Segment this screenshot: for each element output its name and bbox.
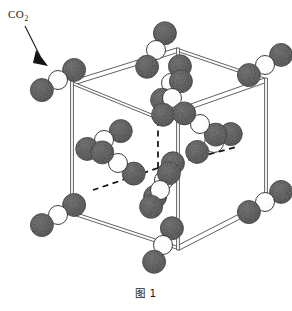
oxygen-atom xyxy=(152,103,175,126)
figure-caption: 图 1 xyxy=(135,287,157,299)
co2-label-main: CO xyxy=(8,8,24,20)
figure-container: CO2 图 1 xyxy=(0,0,292,311)
oxygen-atom xyxy=(140,195,163,218)
co2-crystal-structure-figure: CO2 图 1 xyxy=(0,0,292,311)
cell-edge-vertical-back-right xyxy=(265,78,268,205)
co2-label-subscript: 2 xyxy=(24,14,28,23)
oxygen-atom xyxy=(186,140,209,163)
oxygen-atom xyxy=(30,214,53,237)
oxygen-atom xyxy=(173,102,196,125)
oxygen-atom xyxy=(143,250,166,273)
oxygen-atom xyxy=(237,64,260,87)
oxygen-atom xyxy=(30,79,53,102)
oxygen-atom xyxy=(237,201,260,224)
oxygen-atom xyxy=(136,55,159,78)
oxygen-atom xyxy=(91,141,114,164)
